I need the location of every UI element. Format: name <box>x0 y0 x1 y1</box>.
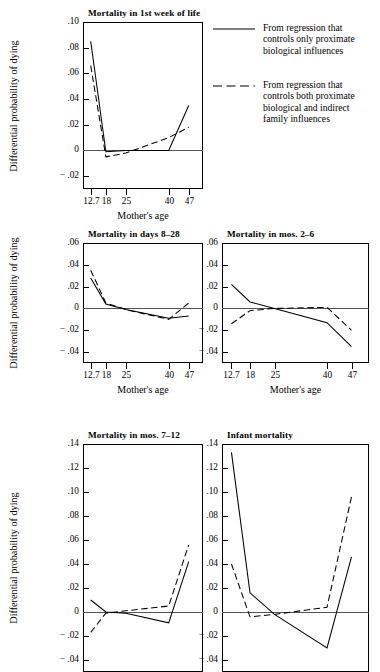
y-tick-label: .02 <box>174 583 218 592</box>
y-axis-title: Differential probability of dying <box>9 237 19 368</box>
y-tick-label: − .02 <box>174 631 218 640</box>
y-tick-label: .12 <box>174 463 218 472</box>
y-tick-label: .10 <box>174 487 218 496</box>
y-tick-label: − .04 <box>174 655 218 664</box>
y-axis-title: Differential probability of dying <box>9 492 19 623</box>
y-axis-title: Differential probability of dying <box>9 40 19 171</box>
y-tick-label: 0 <box>174 607 218 616</box>
legend-label-solid: From regression that controls only proxi… <box>263 22 380 56</box>
legend-label-dashed: From regression that controls both proxi… <box>263 79 380 125</box>
legend-line-solid-icon <box>212 25 256 33</box>
data-series-solid <box>231 452 351 648</box>
y-tick-label: .06 <box>174 535 218 544</box>
data-series-dashed <box>231 497 351 617</box>
figure-root: Mortality in 1st week of life − .020.02.… <box>0 0 380 672</box>
chart-legend: From regression that controls only proxi… <box>0 0 380 120</box>
y-tick-label: .14 <box>174 439 218 448</box>
legend-line-dashed-icon <box>212 82 256 90</box>
y-tick-label: .08 <box>174 511 218 520</box>
y-tick-label: .04 <box>174 559 218 568</box>
